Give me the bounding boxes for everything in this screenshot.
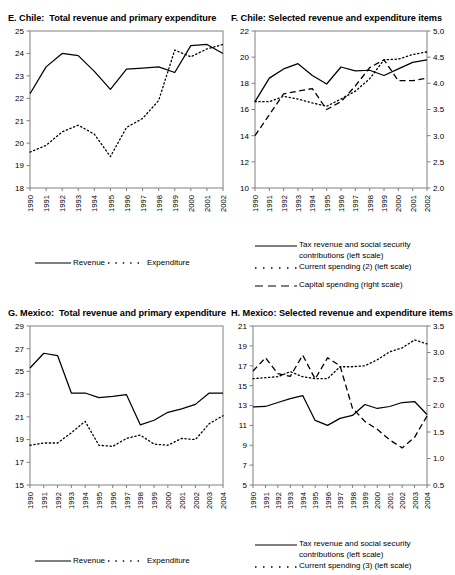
panel-e-svg: 1819202122232425199019911992199319941995… [8,25,227,247]
x-axis-tick-label: 1996 [324,492,333,509]
y-axis-tick-label: 14 [240,131,249,140]
x-axis-tick-label: 1995 [311,492,320,509]
x-axis-tick-label: 1997 [336,492,345,509]
y-axis-right-tick-label: 0.5 [433,480,445,489]
y-axis-right-tick-label: 2.5 [433,374,445,383]
x-axis-tick-label: 2000 [164,492,173,509]
panel-h-svg: 5791113151719210.51.01.52.02.53.03.51990… [231,320,455,542]
series-line [30,44,223,93]
y-axis-tick-label: 13 [238,401,247,410]
legend-label-revenue: Revenue [73,258,105,269]
x-axis-tick-label: 1994 [90,195,99,212]
y-axis-tick-label: 24 [15,49,24,58]
y-axis-tick-label: 25 [15,26,24,35]
y-axis-right-tick-label: 1.5 [433,427,445,436]
x-axis-tick-label: 1990 [251,195,260,212]
x-axis-tick-label: 1996 [123,195,132,212]
figure-sheet: E. Chile: Total revenue and primary expe… [0,0,455,575]
panel-e-legend: Revenue Expenditure [33,258,190,269]
y-axis-tick-label: 19 [15,435,24,444]
legend-row-e: Revenue Expenditure [33,258,190,269]
panel-h-legend: Tax revenue and social security contribu… [251,539,455,572]
y-axis-tick-label: 21 [15,116,24,125]
solid-line-key-icon [251,240,299,251]
x-axis-tick-label: 1998 [136,492,145,509]
x-axis-tick-label: 1999 [150,492,159,509]
x-axis-tick-label: 1995 [323,195,332,212]
legend-row-f-capital: Capital spending (right scale) [251,280,455,291]
x-axis-tick-label: 1993 [74,195,83,212]
y-axis-tick-label: 22 [240,26,249,35]
y-axis-tick-label: 5 [243,480,248,489]
y-axis-right-tick-label: 4.5 [433,53,445,62]
x-axis-tick-label: 2000 [373,492,382,509]
x-axis-tick-label: 2003 [205,492,214,509]
panel-h-title: H. Mexico: Selected revenue and expendit… [231,307,455,320]
legend-label-tax-line2: contributions (left scale) [299,251,383,262]
legend-label-tax-line1: Tax revenue and social security [299,240,411,251]
x-axis-tick-label: 1991 [40,492,49,509]
x-axis-tick-label: 1997 [123,492,132,509]
x-axis-tick-label: 2002 [423,195,432,212]
y-axis-tick-label: 18 [240,79,249,88]
y-axis-tick-label: 25 [15,367,24,376]
panel-g-title: G. Mexico: Total revenue and primary exp… [8,307,227,320]
x-axis-tick-label: 1993 [286,492,295,509]
x-axis-tick-label: 1991 [265,195,274,212]
legend-row-h-tax-cont: contributions (left scale) [251,550,455,561]
y-axis-tick-label: 16 [240,105,249,114]
x-axis-tick-label: 1992 [58,195,67,212]
x-axis-tick-label: 2002 [219,195,228,212]
x-axis-tick-label: 2001 [409,195,418,212]
y-axis-tick-label: 19 [15,161,24,170]
x-axis-tick-label: 1992 [274,492,283,509]
y-axis-tick-label: 11 [239,421,248,430]
panel-f-legend: Tax revenue and social security contribu… [251,240,455,291]
x-axis-tick-label: 1991 [42,195,51,212]
y-axis-tick-label: 20 [240,53,249,62]
x-axis-tick-label: 2004 [423,492,432,509]
y-axis-right-tick-label: 4.0 [433,79,445,88]
legend-label-current-spending: Current spending (2) (left scale) [299,262,412,273]
y-axis-right-tick-label: 5.0 [433,26,445,35]
legend-row-g: Revenue Expenditure [33,556,190,567]
panel-f-title: F. Chile: Selected revenue and expenditu… [231,12,455,25]
x-axis-tick-label: 1992 [54,492,63,509]
x-axis-tick-label: 1999 [361,492,370,509]
y-axis-tick-label: 12 [240,157,249,166]
x-axis-tick-label: 1998 [349,492,358,509]
dotted-line-key-icon [251,561,299,572]
legend-row-f-tax: Tax revenue and social security [251,240,455,251]
x-axis-tick-label: 1992 [280,195,289,212]
y-axis-right-tick-label: 2.0 [433,183,445,192]
y-axis-right-tick-label: 3.5 [433,105,445,114]
y-axis-tick-label: 23 [15,71,24,80]
panel-f-plot: 101214161820222.02.53.03.54.04.55.019901… [231,25,455,247]
x-axis-tick-label: 2001 [386,492,395,509]
solid-line-key-icon [33,258,73,268]
y-axis-tick-label: 21 [15,412,24,421]
x-axis-tick-label: 2003 [411,492,420,509]
dashed-line-key-icon [251,280,299,291]
x-axis-tick-label: 2000 [187,195,196,212]
y-axis-right-tick-label: 3.0 [433,131,445,140]
x-axis-tick-label: 1998 [155,195,164,212]
legend-label-tax-line2: contributions (left scale) [299,550,383,561]
panel-h-plot: 5791113151719210.51.01.52.02.53.03.51990… [231,320,455,542]
legend-label-capital-spending: Capital spending (right scale) [299,280,403,291]
x-axis-tick-label: 2002 [398,492,407,509]
x-axis-tick-label: 1990 [26,195,35,212]
x-axis-tick-label: 1990 [26,492,35,509]
y-axis-tick-label: 17 [238,361,247,370]
x-axis-tick-label: 1995 [95,492,104,509]
legend-row-h-current: Current spending (3) (left scale) [251,561,455,572]
solid-line-key-icon [33,556,73,566]
x-axis-tick-label: 1999 [380,195,389,212]
x-axis-tick-label: 1995 [107,195,116,212]
y-axis-tick-label: 27 [15,344,24,353]
y-axis-tick-label: 10 [240,183,249,192]
y-axis-right-tick-label: 2.5 [433,157,445,166]
y-axis-tick-label: 20 [15,139,24,148]
x-axis-tick-label: 2001 [178,492,187,509]
dotted-line-key-icon [105,258,147,268]
